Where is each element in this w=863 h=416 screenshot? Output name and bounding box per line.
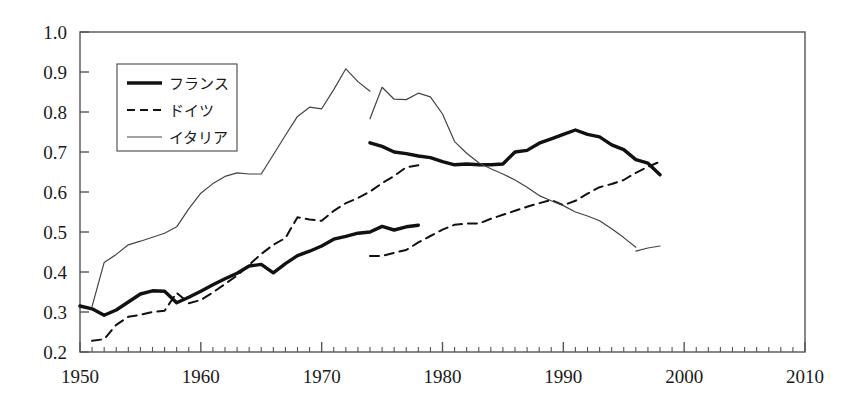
legend-label: フランス [169,75,229,93]
y-tick-label: 0.2 [43,342,67,363]
y-tick-label: 0.3 [43,302,67,323]
chart-legend: フランスドイツイタリア [117,64,237,151]
chart-background [0,0,863,416]
y-axis-tick-labels: 0.20.30.40.50.60.70.80.91.0 [43,22,67,363]
y-tick-label: 0.8 [43,102,67,123]
y-tick-label: 0.9 [43,62,67,83]
y-tick-label: 1.0 [43,22,67,43]
legend-label: ドイツ [169,102,214,120]
x-tick-label: 1950 [61,366,99,387]
y-tick-label: 0.5 [43,222,67,243]
x-tick-label: 2000 [665,366,703,387]
x-tick-label: 1980 [424,366,462,387]
x-tick-label: 1990 [544,366,582,387]
legend-label: イタリア [169,129,228,147]
y-tick-label: 0.7 [43,142,67,163]
y-tick-label: 0.6 [43,182,67,203]
x-tick-label: 1970 [303,366,341,387]
y-tick-label: 0.4 [43,262,67,283]
x-tick-label: 1960 [182,366,220,387]
line-chart: 1950196019701980199020002010 0.20.30.40.… [0,0,863,416]
x-tick-label: 2010 [786,366,824,387]
chart-page: 1950196019701980199020002010 0.20.30.40.… [0,0,863,416]
